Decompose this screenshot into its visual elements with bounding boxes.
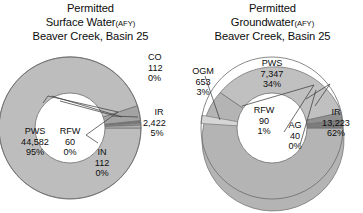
label-co-value: 112: [148, 63, 178, 74]
label-ag-value: 40: [279, 131, 311, 142]
title-line-3: Beaver Creek, Basin 25: [182, 30, 363, 44]
label-in-name: IN: [84, 147, 120, 158]
chart-title-groundwater: Permitted Groundwater(AFY) Beaver Creek,…: [182, 2, 363, 44]
title-line-1: Permitted: [182, 2, 363, 16]
title-subject: Groundwater: [231, 16, 295, 28]
label-rfw-pct: 1%: [244, 126, 284, 137]
label-pws-name: PWS: [240, 58, 304, 69]
label-ag-name: AG: [279, 120, 311, 131]
title-line-2: Surface Water(AFY): [0, 16, 181, 31]
chart-title-surface-water: Permitted Surface Water(AFY) Beaver Cree…: [0, 2, 181, 44]
title-unit: (AFY): [294, 19, 314, 28]
label-rfw-name: RFW: [244, 105, 284, 116]
label-co-pct: 0%: [148, 73, 178, 84]
label-ir-pct: 62%: [313, 128, 359, 139]
label-pws: PWS 7,347 34%: [240, 58, 304, 90]
label-ag-pct: 0%: [279, 141, 311, 152]
label-ir: IR 13,223 62%: [313, 107, 359, 139]
title-unit: (AFY): [115, 19, 135, 28]
label-ogm-value: 653: [182, 77, 224, 88]
title-line-1: Permitted: [0, 2, 181, 16]
chart-panel-groundwater: Permitted Groundwater(AFY) Beaver Creek,…: [182, 0, 363, 213]
label-pws-value: 7,347: [240, 69, 304, 80]
label-rfw-value: 60: [50, 137, 90, 148]
label-in-pct: 0%: [84, 168, 120, 179]
label-ir-name: IR: [313, 107, 359, 118]
label-ogm: OGM 653 3%: [182, 66, 224, 98]
label-ir-name: IR: [143, 107, 181, 118]
label-rfw-name: RFW: [50, 126, 90, 137]
label-co: CO 112 0%: [148, 52, 178, 84]
label-ir: IR 2,422 5%: [143, 107, 181, 139]
dual-donut-chart-figure: Permitted Surface Water(AFY) Beaver Cree…: [0, 0, 363, 213]
label-rfw: RFW 90 1%: [244, 105, 284, 137]
label-pws-pct: 34%: [240, 79, 304, 90]
label-ogm-name: OGM: [182, 66, 224, 77]
label-ag: AG 40 0%: [279, 120, 311, 152]
label-in: IN 112 0%: [84, 147, 120, 179]
label-co-name: CO: [148, 52, 178, 63]
label-ir-value: 2,422: [143, 118, 181, 129]
label-rfw-value: 90: [244, 116, 284, 127]
label-ogm-pct: 3%: [182, 87, 224, 98]
label-in-value: 112: [84, 158, 120, 169]
label-ir-value: 13,223: [313, 118, 359, 129]
title-subject: Surface Water: [46, 16, 116, 28]
title-line-3: Beaver Creek, Basin 25: [0, 30, 181, 44]
label-ir-pct: 5%: [143, 128, 181, 139]
title-line-2: Groundwater(AFY): [182, 16, 363, 31]
chart-panel-surface-water: Permitted Surface Water(AFY) Beaver Cree…: [0, 0, 181, 213]
